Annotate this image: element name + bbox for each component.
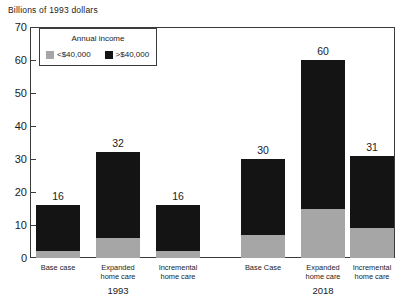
y-tick-60	[30, 60, 36, 61]
bar-1993-incremental-home-care-high-income-segment	[156, 205, 200, 251]
legend-title: Annual income	[40, 34, 156, 43]
y-tick-label-30: 30	[1, 154, 27, 165]
y-tick-20	[30, 192, 36, 193]
legend-label-high-income: >$40,000	[116, 50, 150, 59]
legend-label-low-income: <$40,000	[57, 50, 91, 59]
y-tick-label-20: 20	[1, 187, 27, 198]
bar-1993-base-case-low-income-segment	[36, 251, 80, 258]
y-tick-40	[30, 126, 36, 127]
bar-2018-base-case-low-income-segment	[241, 235, 285, 258]
y-tick-label-60: 60	[1, 55, 27, 66]
bar-2018-base-case-category-label: Base Case	[229, 263, 297, 272]
bar-2018-expanded-home-care-high-income-segment	[301, 60, 345, 209]
chart-root: Billions of 1993 dollars 010203040506070…	[0, 0, 401, 301]
bar-1993-expanded-home-care-category-label: Expanded home care	[84, 263, 152, 281]
legend-entries: <$40,000 >$40,000	[46, 50, 152, 59]
legend: Annual income <$40,000 >$40,000	[39, 28, 157, 66]
bar-2018-incremental-home-care-high-income-segment	[350, 156, 394, 229]
y-tick-label-10: 10	[1, 220, 27, 231]
bar-1993-expanded-home-care-low-income-segment	[96, 238, 140, 258]
group-label-1993: 1993	[88, 286, 148, 296]
y-tick-label-0: 0	[1, 253, 27, 264]
bar-1993-incremental-home-care-category-label: Incremental home care	[144, 263, 212, 281]
legend-entry-low-income: <$40,000	[46, 50, 91, 59]
bar-2018-base-case-high-income-segment	[241, 159, 285, 235]
y-tick-50	[30, 93, 36, 94]
high-income-swatch-icon	[105, 51, 113, 59]
low-income-swatch-icon	[46, 51, 54, 59]
bar-2018-incremental-home-care[interactable]	[350, 156, 394, 258]
bar-2018-incremental-home-care-category-label: Incremental home care	[338, 263, 401, 281]
bar-1993-base-case-category-label: Base case	[24, 263, 92, 272]
bar-2018-base-case[interactable]	[241, 159, 285, 258]
bar-2018-incremental-home-care-low-income-segment	[350, 228, 394, 258]
y-tick-30	[30, 159, 36, 160]
y-tick-label-40: 40	[1, 121, 27, 132]
bar-1993-incremental-home-care[interactable]	[156, 205, 200, 258]
bar-1993-base-case-high-income-segment	[36, 205, 80, 251]
bar-1993-expanded-home-care[interactable]	[96, 152, 140, 258]
y-tick-label-70: 70	[1, 22, 27, 33]
bar-2018-expanded-home-care-low-income-segment	[301, 209, 345, 259]
group-label-2018: 2018	[293, 286, 353, 296]
bar-2018-expanded-home-care[interactable]	[301, 60, 345, 258]
bar-1993-incremental-home-care-low-income-segment	[156, 251, 200, 258]
y-axis-title: Billions of 1993 dollars	[8, 5, 98, 15]
bar-1993-expanded-home-care-high-income-segment	[96, 152, 140, 238]
legend-entry-high-income: >$40,000	[105, 50, 150, 59]
y-tick-label-50: 50	[1, 88, 27, 99]
bar-1993-base-case[interactable]	[36, 205, 80, 258]
